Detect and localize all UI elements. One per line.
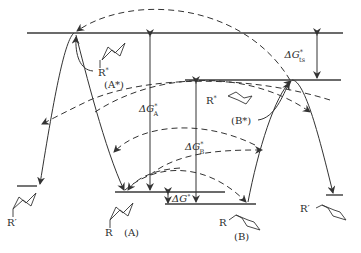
ring-right-product [322,205,346,220]
bond-right-product [316,205,322,208]
dg-ts-label: ΔG*ts [284,48,305,64]
dg-0-label: ΔG° [171,193,190,204]
dg-a-label: ΔG*A [138,102,158,118]
bond-b [229,215,236,220]
b-state: (B) [234,231,249,242]
b-star-label: R* [206,94,218,106]
a-star-state: (A*) [104,79,124,90]
b-star-right-curve [292,80,333,193]
b-star-left-curve [248,81,291,202]
ring-a-star [102,43,125,60]
ring-b-star [228,92,252,104]
dash-b-star-to-a-star [77,9,290,80]
dg-b-label: ΔG*B [184,140,204,156]
a-label: R [105,227,113,238]
ring-a [110,203,133,220]
ring-left-product [13,193,36,209]
dash-b-loop-to-b-curve [150,150,262,175]
ring-b [236,215,260,230]
left-product-label: R′ [7,217,18,228]
a-state: (A) [124,227,139,238]
dash-upper-left-to-b-star-right [95,81,310,113]
b-star-state: (B*) [231,115,251,126]
a-star-right-curve [76,35,124,190]
energy-diagram: R* (A*) R* (B*) R (A) R (B) R′ R′ ΔG*A Δ… [0,0,361,253]
b-label: R [219,217,227,228]
a-star-left-curve [40,33,74,184]
a-star-label: R* [98,66,110,78]
right-product-label: R′ [300,203,311,214]
